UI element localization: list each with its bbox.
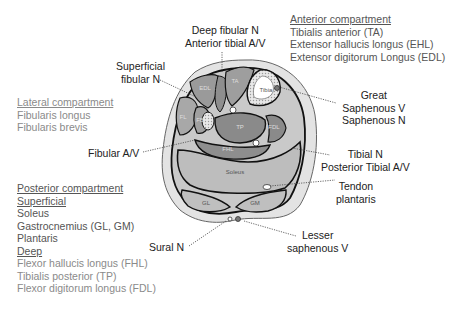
fibular-n-text: fibular N — [116, 73, 165, 86]
superficial-text: Superficial — [116, 60, 165, 73]
svg-text:GM: GM — [250, 200, 260, 206]
plantaris-text: plantaris — [336, 193, 376, 206]
svg-text:FL: FL — [179, 114, 187, 120]
anterior-item: Extensor hallucis longus (EHL) — [290, 38, 445, 51]
svg-text:TP: TP — [236, 124, 244, 130]
lateral-compartment-title: Lateral compartment — [17, 96, 113, 109]
lesser-text: Lesser — [287, 229, 348, 242]
deep-item: Tibialis posterior (TP) — [17, 270, 156, 283]
anterior-compartment-legend: Anterior compartment Tibialis anterior (… — [290, 13, 445, 63]
deep-item: Flexor hallucis longus (FHL) — [17, 257, 156, 270]
superficial-item: Gastrocnemius (GL, GM) — [17, 220, 156, 233]
deep-fibular-n-text: Deep fibular N — [185, 24, 266, 37]
saphenous-v-text: Saphenous V — [342, 102, 406, 115]
deep-title: Deep — [17, 245, 156, 258]
fibular-av-label: Fibular A/V — [88, 147, 139, 160]
anterior-item: Tibialis anterior (TA) — [290, 26, 445, 39]
saphenous-n-text: Saphenous N — [342, 114, 406, 127]
svg-text:EDL: EDL — [199, 85, 211, 91]
svg-text:FDL: FDL — [268, 124, 280, 130]
superficial-item: Soleus — [17, 207, 156, 220]
svg-text:Tibia: Tibia — [260, 87, 273, 93]
saphenous-v-lesser-text: saphenous V — [287, 242, 348, 255]
svg-text:GL: GL — [202, 200, 211, 206]
tibial-label: Tibial N Posterior Tibial A/V — [321, 148, 410, 173]
superficial-item: Plantaris — [17, 232, 156, 245]
lateral-compartment-legend: Lateral compartment Fibularis longus Fib… — [17, 96, 113, 134]
tendon-plantaris-label: Tendon plantaris — [336, 180, 376, 205]
anterior-item: Extensor digitorum Longus (EDL) — [290, 51, 445, 64]
anterior-compartment-title: Anterior compartment — [290, 13, 445, 26]
svg-text:TA: TA — [231, 78, 238, 84]
superficial-fibular-label: Superficial fibular N — [116, 60, 165, 85]
svg-text:Soleus: Soleus — [226, 169, 244, 175]
tendon-text: Tendon — [336, 180, 376, 193]
deep-item: Flexor digitorum longus (FDL) — [17, 282, 156, 295]
great-text: Great — [342, 89, 406, 102]
lateral-item: Fibularis brevis — [17, 121, 113, 134]
posterior-compartment-legend: Posterior compartment Superficial Soleus… — [17, 182, 156, 295]
posterior-tibial-av-text: Posterior Tibial A/V — [321, 161, 410, 174]
superficial-title: Superficial — [17, 195, 156, 208]
lesser-saphenous-label: Lesser saphenous V — [287, 229, 348, 254]
posterior-compartment-title: Posterior compartment — [17, 182, 156, 195]
lateral-item: Fibularis longus — [17, 109, 113, 122]
svg-text:FHL: FHL — [222, 146, 234, 152]
anterior-tibial-av-text: Anterior tibial A/V — [185, 37, 266, 50]
tibial-n-text: Tibial N — [321, 148, 410, 161]
great-saphenous-label: Great Saphenous V Saphenous N — [342, 89, 406, 127]
svg-text:FB: FB — [196, 117, 204, 123]
deep-fibular-label: Deep fibular N Anterior tibial A/V — [185, 24, 266, 49]
